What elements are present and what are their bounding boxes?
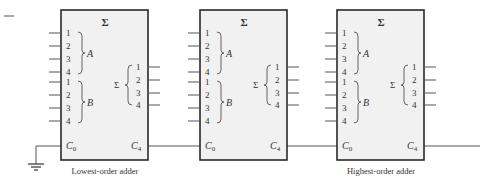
sum-pin-3: 3 [136, 88, 141, 98]
a-pin-2: 2 [342, 41, 347, 51]
a-pin-1: 1 [205, 28, 210, 38]
b-pin-4: 4 [342, 116, 347, 126]
sum-pin-3: 3 [275, 88, 280, 98]
adder-3: Σ 1 2 3 4 1 2 3 4 A B Σ 1 2 3 4 [325, 10, 436, 176]
sum-pin-1: 1 [136, 62, 141, 72]
input-a-label: A [86, 48, 94, 59]
adder-cascade-diagram: Σ 1 2 3 4 1 2 3 4 A B Σ 1 2 3 4 [0, 0, 498, 180]
input-a-label: A [362, 48, 370, 59]
adder-box [337, 10, 424, 160]
a-pin-3: 3 [66, 54, 71, 64]
sum-pin-2: 2 [412, 75, 417, 85]
b-pin-1: 1 [342, 77, 347, 87]
input-b-label: B [87, 97, 93, 108]
output-sum-label: Σ [114, 80, 119, 90]
ground-connection [28, 146, 61, 170]
sum-pin-4: 4 [275, 100, 280, 110]
sum-pin-4: 4 [412, 100, 417, 110]
b-pin-1: 1 [205, 77, 210, 87]
a-pin-3: 3 [205, 54, 210, 64]
adder-caption: Lowest-order adder [72, 166, 139, 176]
adder-title: Σ [101, 16, 108, 28]
b-pin-4: 4 [205, 116, 210, 126]
b-pin-3: 3 [205, 103, 210, 113]
sum-pin-1: 1 [412, 62, 417, 72]
sum-pin-2: 2 [275, 75, 280, 85]
output-sum-label: Σ [390, 80, 395, 90]
b-pin-1: 1 [66, 77, 71, 87]
input-a-label: A [225, 48, 233, 59]
sum-pin-1: 1 [275, 62, 280, 72]
a-pin-1: 1 [66, 28, 71, 38]
input-b-label: B [363, 97, 369, 108]
a-pin-4: 4 [205, 67, 210, 77]
a-pin-4: 4 [342, 67, 347, 77]
b-pin-3: 3 [66, 103, 71, 113]
a-pin-4: 4 [66, 67, 71, 77]
adder-title: Σ [377, 16, 384, 28]
a-pin-3: 3 [342, 54, 347, 64]
adder-box [200, 10, 287, 160]
adder-2: Σ 1 2 3 4 1 2 3 4 A B Σ 1 2 3 4 [188, 10, 299, 160]
sum-pin-3: 3 [412, 88, 417, 98]
input-b-label: B [226, 97, 232, 108]
adder-caption: Highest-order adder [347, 166, 415, 176]
b-pin-3: 3 [342, 103, 347, 113]
b-pin-2: 2 [66, 90, 71, 100]
a-pin-1: 1 [342, 28, 347, 38]
ground-icon [28, 164, 44, 170]
a-pin-2: 2 [205, 41, 210, 51]
adder-box [61, 10, 148, 160]
a-pin-2: 2 [66, 41, 71, 51]
adder-1: Σ 1 2 3 4 1 2 3 4 A B Σ 1 2 3 4 [49, 10, 160, 176]
sum-pin-2: 2 [136, 75, 141, 85]
adder-title: Σ [240, 16, 247, 28]
b-pin-4: 4 [66, 116, 71, 126]
sum-pin-4: 4 [136, 100, 141, 110]
b-pin-2: 2 [205, 90, 210, 100]
b-pin-2: 2 [342, 90, 347, 100]
output-sum-label: Σ [253, 80, 258, 90]
